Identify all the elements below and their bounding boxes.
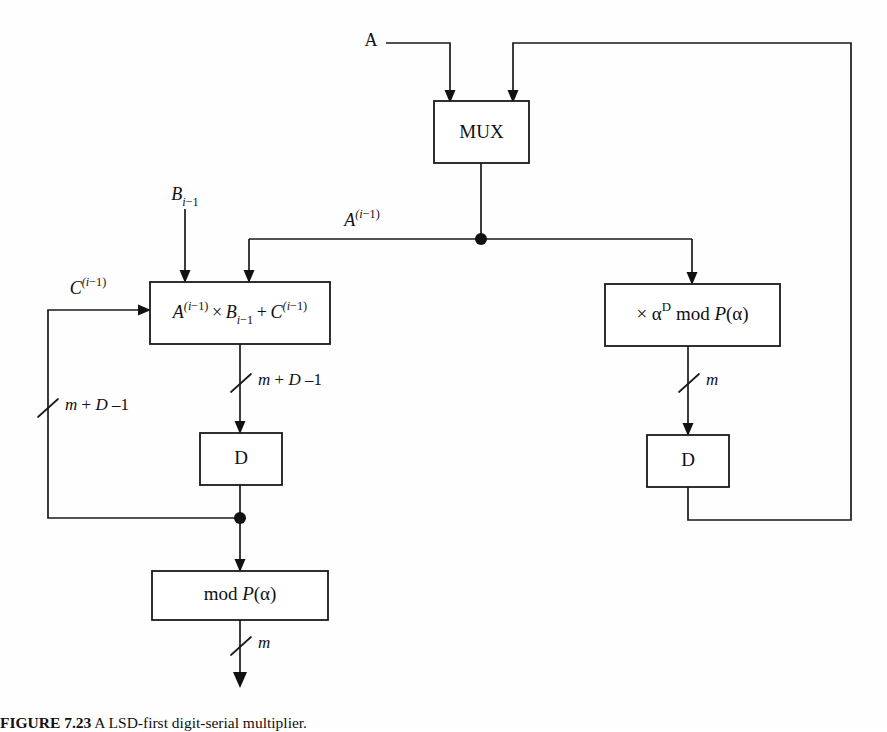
arrowhead-alpha-mod-input — [687, 272, 698, 285]
junction-dot-a-bus — [475, 233, 487, 245]
arrowhead-multiplier-input-b — [180, 270, 191, 283]
label-width-feedback-c: m + D –1 — [65, 395, 129, 414]
arrowhead-delay-left-input — [235, 421, 246, 434]
label-input-a: A — [365, 30, 378, 50]
arrowhead-multiplier-input-a — [244, 270, 255, 283]
figure-caption: FIGURE 7.23 A LSD-first digit-serial mul… — [0, 713, 887, 732]
label-width-mod-out: m — [258, 633, 270, 652]
wire-input-a — [386, 43, 450, 94]
label-feedback-a: A(i−1) — [343, 207, 380, 230]
label-feedback-c: C(i−1) — [70, 275, 107, 298]
figure-caption-number: FIGURE 7.23 — [0, 714, 91, 731]
block-delay-left-label: D — [234, 447, 248, 468]
slash-alpha-out — [679, 374, 699, 392]
label-input-b: Bi−1 — [171, 184, 198, 209]
arrowhead-mod-p-input — [235, 559, 246, 572]
arrowhead-final-output — [233, 672, 247, 688]
block-alpha-mod-label: × αD mod P(α) — [636, 299, 748, 325]
slash-mult-out — [231, 374, 251, 392]
block-mux-label: MUX — [459, 121, 504, 142]
slash-mod-out — [231, 637, 251, 655]
label-width-alpha-out: m — [706, 370, 718, 389]
block-delay-right-label: D — [681, 449, 695, 470]
junction-dot-c-feedback — [234, 512, 246, 524]
block-mod-p-label: mod P(α) — [204, 583, 277, 605]
arrowhead-delay-right-input — [683, 423, 694, 436]
figure-caption-text: A LSD-first digit-serial multiplier. — [94, 714, 307, 731]
arrowhead-multiplier-input-c — [138, 305, 151, 316]
label-width-mult-out: m + D –1 — [258, 370, 322, 389]
